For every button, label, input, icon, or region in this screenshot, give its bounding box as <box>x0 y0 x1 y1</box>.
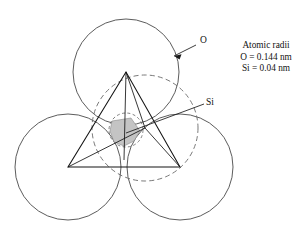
tetra-edge-bottomright-to-back <box>145 128 180 167</box>
oxygen-label: O <box>200 35 207 45</box>
tetrahedron-diagram: O Si <box>0 0 308 231</box>
annotation-title: Atomic radii <box>226 40 306 52</box>
annotation-oxygen-radius: O = 0.144 nm <box>226 52 306 64</box>
annotation-silicon-radius: Si = 0.04 nm <box>226 63 306 75</box>
silicate-tetrahedron-figure: O Si Atomic radii O = 0.144 nm Si = 0.04… <box>0 0 308 231</box>
oxygen-leader-line <box>174 45 196 56</box>
silicon-label: Si <box>206 97 214 107</box>
atomic-radii-annotation: Atomic radii O = 0.144 nm Si = 0.04 nm <box>226 40 306 75</box>
